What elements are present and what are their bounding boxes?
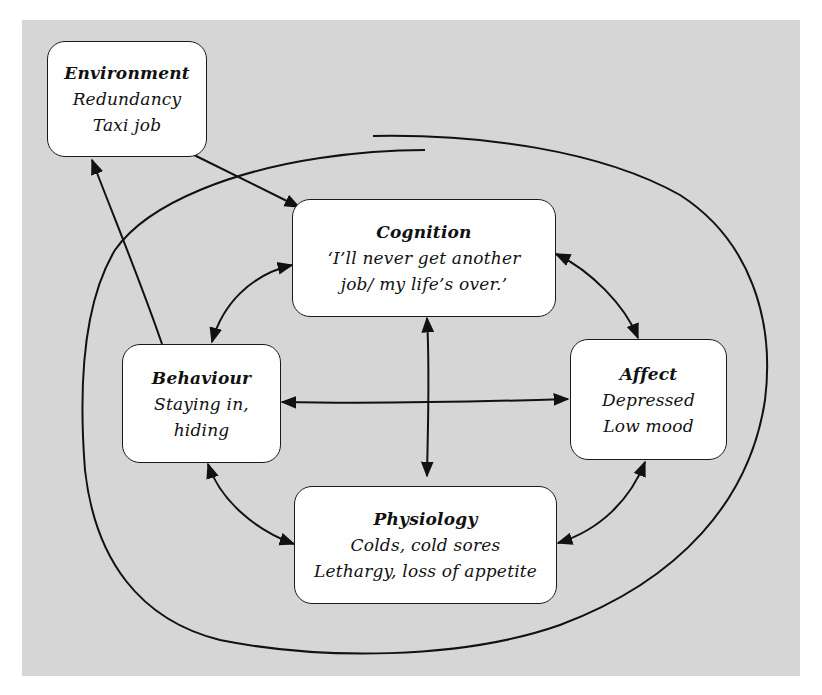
node-physiology-line-1: Colds, cold sores xyxy=(351,532,501,558)
arrow-behaviour-physiology xyxy=(208,464,294,544)
node-environment: Environment Redundancy Taxi job xyxy=(47,41,207,157)
node-affect-line-1: Depressed xyxy=(602,387,695,413)
arrow-environment-to-cognition xyxy=(190,153,299,207)
arrow-behaviour-to-environment xyxy=(92,160,162,344)
node-environment-line-1: Redundancy xyxy=(73,86,182,112)
node-affect-title: Affect xyxy=(620,361,678,387)
node-physiology-title: Physiology xyxy=(374,506,478,532)
node-behaviour-line-2: hiding xyxy=(174,417,230,443)
node-cognition-line-2: job/ my life’s over.’ xyxy=(341,271,508,297)
node-cognition-title: Cognition xyxy=(376,219,471,245)
node-environment-title: Environment xyxy=(64,60,190,86)
node-behaviour: Behaviour Staying in, hiding xyxy=(122,344,281,463)
arrow-cognition-affect xyxy=(556,254,638,338)
node-environment-line-2: Taxi job xyxy=(93,112,162,138)
arrow-behaviour-affect xyxy=(282,399,568,403)
node-cognition: Cognition ‘I’ll never get another job/ m… xyxy=(292,199,556,317)
node-affect-line-2: Low mood xyxy=(603,413,694,439)
arrow-cognition-physiology xyxy=(427,318,429,476)
node-physiology-line-2: Lethargy, loss of appetite xyxy=(314,558,537,584)
node-behaviour-title: Behaviour xyxy=(152,365,251,391)
node-cognition-line-1: ‘I’ll never get another xyxy=(327,245,520,271)
arrow-cognition-behaviour xyxy=(212,265,292,342)
node-physiology: Physiology Colds, cold sores Lethargy, l… xyxy=(294,486,557,604)
arrow-affect-physiology xyxy=(558,462,645,543)
node-affect: Affect Depressed Low mood xyxy=(570,339,727,460)
node-behaviour-line-1: Staying in, xyxy=(154,391,249,417)
